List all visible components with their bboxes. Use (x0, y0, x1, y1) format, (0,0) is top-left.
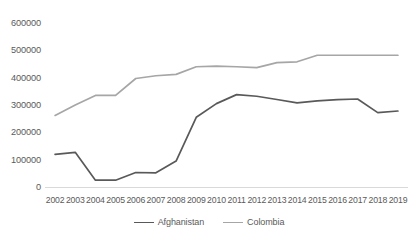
series-group (55, 55, 398, 180)
x-tick-label: 2011 (227, 194, 247, 208)
y-tick-label: 400000 (0, 73, 41, 83)
x-tick-label: 2002 (45, 194, 65, 208)
x-tick-label: 2003 (65, 194, 85, 208)
legend-label: Colombia (247, 217, 284, 227)
x-axis: 2002200320042005200620072008200920102011… (45, 194, 408, 208)
chart-legend: AfghanistanColombia (0, 214, 418, 230)
y-tick-label: 300000 (0, 100, 41, 110)
plot-area (45, 18, 408, 192)
x-tick-label: 2008 (166, 194, 186, 208)
y-axis: 0100000200000300000400000500000600000 (0, 0, 41, 239)
x-tick-label: 2013 (267, 194, 287, 208)
legend-label: Afghanistan (158, 217, 204, 227)
legend-item-colombia[interactable]: Colombia (223, 217, 284, 227)
y-tick-label: 0 (0, 182, 41, 192)
x-tick-label: 2007 (146, 194, 166, 208)
series-line-colombia (55, 55, 398, 115)
y-tick-label: 200000 (0, 127, 41, 137)
x-tick-label: 2005 (106, 194, 126, 208)
x-tick-label: 2012 (247, 194, 267, 208)
plot-svg (45, 18, 408, 192)
legend-swatch-icon (223, 222, 243, 223)
series-line-afghanistan (55, 95, 398, 181)
x-tick-label: 2006 (126, 194, 146, 208)
x-tick-label: 2009 (186, 194, 206, 208)
x-tick-label: 2018 (368, 194, 388, 208)
x-tick-label: 2004 (85, 194, 105, 208)
legend-swatch-icon (134, 222, 154, 223)
x-tick-label: 2015 (307, 194, 327, 208)
y-tick-label: 500000 (0, 45, 41, 55)
x-tick-label: 2014 (287, 194, 307, 208)
y-tick-label: 100000 (0, 155, 41, 165)
x-tick-label: 2019 (388, 194, 408, 208)
x-tick-label: 2017 (348, 194, 368, 208)
legend-item-afghanistan[interactable]: Afghanistan (134, 217, 204, 227)
x-tick-label: 2010 (206, 194, 226, 208)
x-tick-label: 2016 (327, 194, 347, 208)
line-chart: 0100000200000300000400000500000600000 20… (0, 0, 418, 239)
y-tick-label: 600000 (0, 18, 41, 28)
